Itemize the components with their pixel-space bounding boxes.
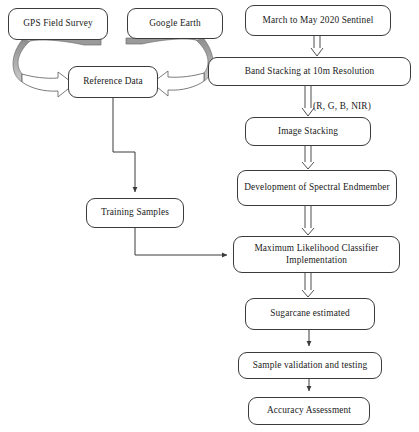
node-label: Sugarcane estimated [249,308,371,320]
node-spectral-endmember[interactable]: Development of Spectral Endmember [237,170,397,206]
node-google-earth[interactable]: Google Earth [127,8,223,39]
node-label: Reference Data [72,76,154,88]
edge-endmember-to-classifier [302,206,314,235]
node-label: Image Stacking [249,126,367,138]
node-label: Sample validation and testing [242,360,378,372]
node-label: March to May 2020 Sentinel [249,15,387,27]
edge-label-rgb-nir: (R, G, B, NIR) [313,101,371,111]
edge-classifier-to-sugarcane [302,273,314,297]
node-label: GPS Field Survey [12,18,104,30]
edge-reference-data-to-training-samples [113,98,135,192]
node-sugarcane-estimated[interactable]: Sugarcane estimated [245,298,375,330]
node-label: Band Stacking at 10m Resolution [212,66,407,78]
node-training-samples[interactable]: Training Samples [86,198,184,228]
edge-image-stacking-to-endmember [302,146,314,169]
node-sample-validation-testing[interactable]: Sample validation and testing [238,352,382,379]
node-band-stacking[interactable]: Band Stacking at 10m Resolution [208,57,411,86]
edge-training-samples-to-classifier [135,228,227,255]
node-label: Maximum Likelihood Classifier Implementa… [237,243,396,267]
node-maximum-likelihood-classifier[interactable]: Maximum Likelihood Classifier Implementa… [233,236,400,273]
node-reference-data[interactable]: Reference Data [68,66,158,98]
node-label: Training Samples [90,207,180,219]
node-label: Accuracy Assessment [252,405,366,417]
node-label: Development of Spectral Endmember [241,182,393,194]
node-image-stacking[interactable]: Image Stacking [245,117,371,146]
node-accuracy-assessment[interactable]: Accuracy Assessment [248,397,370,425]
flowchart-canvas: GPS Field Survey Google Earth March to M… [0,0,419,432]
node-gps-field-survey[interactable]: GPS Field Survey [8,8,108,40]
node-sentinel-imagery[interactable]: March to May 2020 Sentinel [245,5,391,36]
node-label: Google Earth [131,18,219,30]
edge-sentinel-to-band-stacking [311,36,323,56]
